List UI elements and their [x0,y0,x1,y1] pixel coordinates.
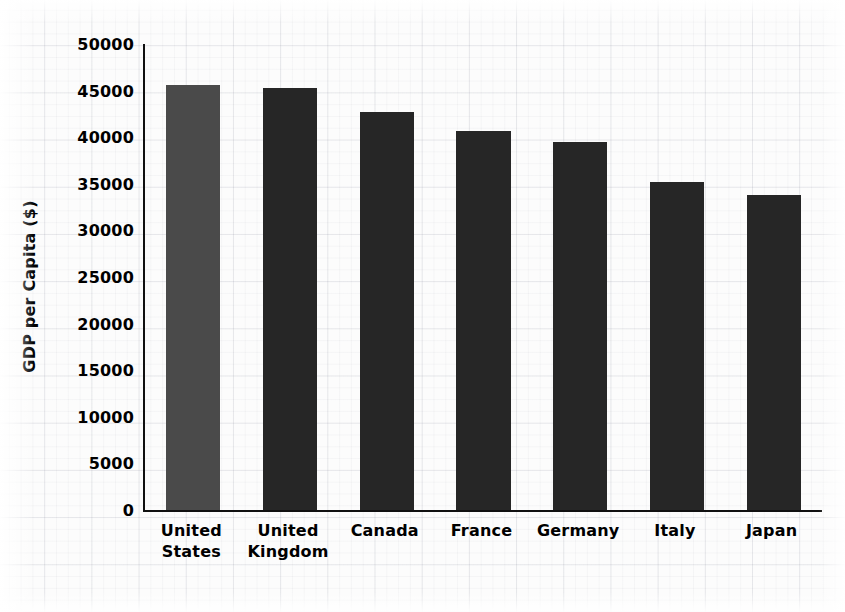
y-axis-tick-label: 5000 [46,454,134,473]
bar [456,131,510,510]
y-axis-tick-label: 25000 [46,268,134,287]
y-axis-tick-label: 35000 [46,174,134,193]
bar-series [145,44,822,510]
y-axis-tick-label: 45000 [46,81,134,100]
x-axis-tick-label: France [433,520,530,541]
bar [360,112,414,510]
bar [650,182,704,510]
bar [263,88,317,510]
y-axis-tick-label: 40000 [46,128,134,147]
y-axis-title: GDP per Capita ($) [20,157,39,417]
chart-page: GDP per Capita ($) 050001000015000200002… [0,0,845,612]
y-axis-tick-label: 50000 [46,35,134,54]
y-axis-tick-label: 15000 [46,361,134,380]
plot-area [143,44,822,512]
x-axis-tick-label: Japan [723,520,820,541]
x-axis-tick-label: Canada [336,520,433,541]
bar [747,195,801,510]
y-axis-tick-label: 10000 [46,407,134,426]
bar [166,85,220,510]
y-axis-tick-label: 30000 [46,221,134,240]
x-axis-tick-label: Germany [530,520,627,541]
x-axis-tick-labels: UnitedStatesUnitedKingdomCanadaFranceGer… [143,520,820,590]
x-axis-tick-label: Italy [627,520,724,541]
x-axis-tick-label: UnitedKingdom [240,520,337,562]
y-axis-tick-labels: 0500010000150002000025000300003500040000… [46,44,134,510]
x-axis-tick-label: UnitedStates [143,520,240,562]
bar-chart: GDP per Capita ($) 050001000015000200002… [0,0,845,612]
y-axis-tick-label: 0 [46,501,134,520]
bar [553,142,607,510]
y-axis-tick-label: 20000 [46,314,134,333]
